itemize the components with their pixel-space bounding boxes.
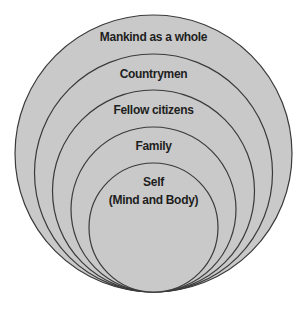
- label-mankind: Mankind as a whole: [100, 30, 208, 44]
- label-self: Self: [143, 175, 165, 189]
- label-fellow-citizens: Fellow citizens: [113, 103, 194, 117]
- label-countrymen: Countrymen: [120, 67, 188, 81]
- label-family: Family: [135, 139, 172, 153]
- nested-circles-diagram: Mankind as a whole Countrymen Fellow cit…: [0, 0, 306, 309]
- label-self-sublabel: (Mind and Body): [109, 193, 199, 207]
